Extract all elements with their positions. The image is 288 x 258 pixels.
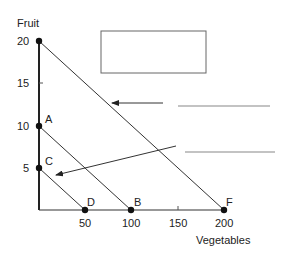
point-A [36, 123, 42, 129]
point-20 [36, 38, 42, 44]
line-20-F [39, 41, 224, 210]
y-tick-label-15: 15 [17, 77, 29, 89]
x-tick-label-100: 100 [122, 217, 140, 229]
point-label-F: F [226, 196, 233, 208]
x-tick-label-150: 150 [169, 217, 187, 229]
point-C [36, 165, 42, 171]
point-label-C: C [45, 155, 53, 167]
y-tick-label-10: 10 [17, 120, 29, 132]
x-tick-label-50: 50 [79, 217, 91, 229]
arrow-2 [56, 146, 176, 175]
x-tick-label-200: 200 [215, 217, 233, 229]
blank-answer-box [101, 31, 206, 73]
x-axis-label: Vegetables [196, 234, 251, 246]
chart: Fruit Vegetables 20 15 10 5 50 100 150 2… [0, 0, 288, 258]
y-axis-label: Fruit [17, 17, 39, 29]
point-label-A: A [45, 113, 53, 125]
y-tick-label-20: 20 [17, 35, 29, 47]
point-label-D: D [87, 196, 95, 208]
line-C-D [39, 168, 85, 210]
y-tick-label-5: 5 [23, 162, 29, 174]
point-label-B: B [134, 196, 141, 208]
